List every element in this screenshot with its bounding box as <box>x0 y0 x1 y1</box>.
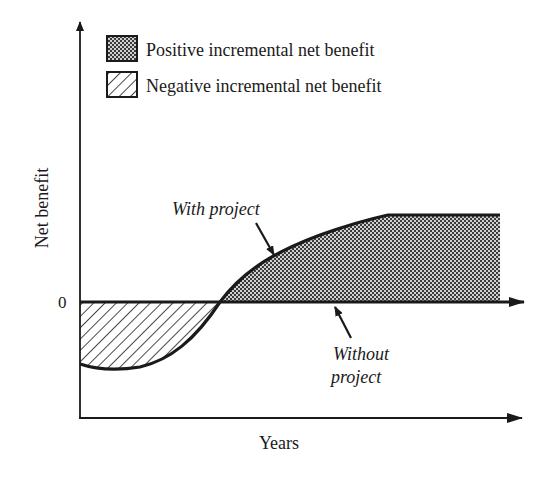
legend-item-negative: Negative incremental net benefit <box>107 72 381 97</box>
without-project-arrow-icon <box>335 307 351 338</box>
legend: Positive incremental net benefit Negativ… <box>107 36 381 97</box>
incremental-net-benefit-diagram: Positive incremental net benefit Negativ… <box>0 0 553 482</box>
positive-benefit-region <box>220 215 500 302</box>
legend-label-negative: Negative incremental net benefit <box>146 76 381 96</box>
without-project-label-line2: project <box>329 367 382 387</box>
negative-swatch-icon <box>107 72 137 97</box>
x-axis-label: Years <box>259 433 299 453</box>
y-axis-label: Net benefit <box>32 168 52 248</box>
without-project-label-line1: Without <box>333 344 390 364</box>
legend-label-positive: Positive incremental net benefit <box>146 40 374 60</box>
with-project-arrow-icon <box>256 223 274 255</box>
y-tick-zero: 0 <box>58 293 67 312</box>
positive-swatch-icon <box>107 36 137 61</box>
legend-item-positive: Positive incremental net benefit <box>107 36 374 61</box>
with-project-label: With project <box>172 199 261 219</box>
negative-benefit-region <box>80 302 220 369</box>
